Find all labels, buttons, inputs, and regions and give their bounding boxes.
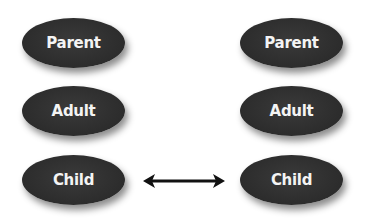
left-parent-label: Parent: [46, 34, 100, 52]
bidirectional-arrow-icon: [143, 172, 225, 190]
right-adult-label: Adult: [270, 102, 314, 120]
right-parent-node: Parent: [240, 18, 343, 68]
right-child-label: Child: [271, 171, 312, 189]
right-adult-node: Adult: [240, 86, 343, 136]
left-child-node: Child: [22, 155, 125, 205]
right-parent-label: Parent: [264, 34, 318, 52]
left-adult-label: Adult: [52, 102, 96, 120]
left-adult-node: Adult: [22, 86, 125, 136]
left-child-label: Child: [53, 171, 94, 189]
right-child-node: Child: [240, 155, 343, 205]
left-parent-node: Parent: [22, 18, 125, 68]
